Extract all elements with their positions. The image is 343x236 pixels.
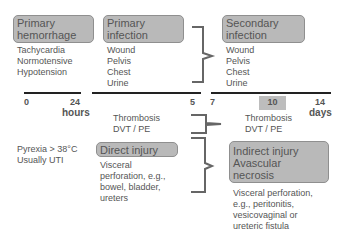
brace-injury-icon bbox=[191, 138, 212, 192]
brace-infection-icon bbox=[192, 27, 212, 82]
brace-thrombosis-icon bbox=[191, 115, 221, 133]
brace-connectors bbox=[0, 0, 343, 236]
